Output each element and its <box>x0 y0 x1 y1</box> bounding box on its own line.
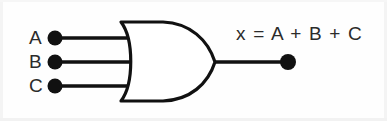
or-gate-shape <box>121 22 215 101</box>
input-label-b: B <box>29 52 42 71</box>
input-terminal-dot-a <box>48 31 63 46</box>
input-terminal-dot-c <box>48 79 63 94</box>
gate-schematic-svg <box>0 0 387 121</box>
input-label-c: C <box>29 76 43 95</box>
input-label-a: A <box>29 28 42 47</box>
input-terminal-dot-b <box>48 55 63 70</box>
output-terminal-dot <box>280 54 296 70</box>
logic-gate-figure: A B C x = A + B + C <box>0 0 387 121</box>
output-expression-label: x = A + B + C <box>236 24 363 43</box>
